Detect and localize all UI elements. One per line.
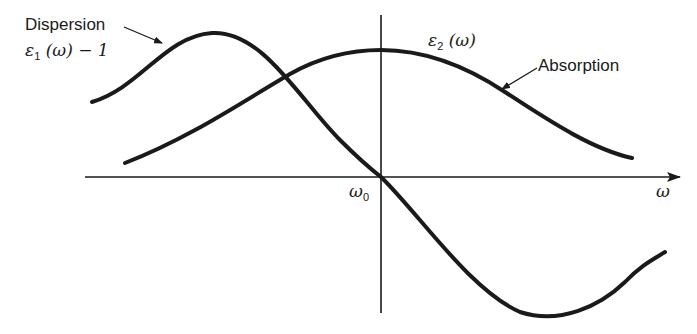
epsilon2-subscript: 2 — [437, 40, 443, 52]
dispersion-label: Dispersion — [25, 16, 105, 33]
epsilon1-argument: (ω) − 1 — [40, 40, 108, 60]
omega0-label: ω0 — [349, 183, 369, 200]
omega0-symbol: ω — [349, 181, 363, 201]
dispersion-title: Dispersion — [25, 15, 105, 34]
epsilon1-symbol: ε — [25, 40, 34, 60]
epsilon2-label: ε2 (ω) — [428, 32, 476, 49]
absorption-leader-arrow — [502, 68, 537, 89]
omega0-subscript: 0 — [363, 191, 369, 203]
dispersion-curve — [92, 33, 665, 316]
epsilon1-subscript: 1 — [34, 50, 40, 62]
epsilon2-argument: (ω) — [443, 30, 476, 50]
absorption-title: Absorption — [538, 56, 619, 75]
epsilon2-symbol: ε — [428, 30, 437, 50]
dispersion-leader-arrow — [124, 27, 162, 43]
omega-symbol: ω — [656, 181, 670, 201]
epsilon1-label: ε1 (ω) − 1 — [25, 42, 109, 59]
absorption-label: Absorption — [538, 57, 619, 74]
omega-axis-label: ω — [656, 183, 670, 200]
